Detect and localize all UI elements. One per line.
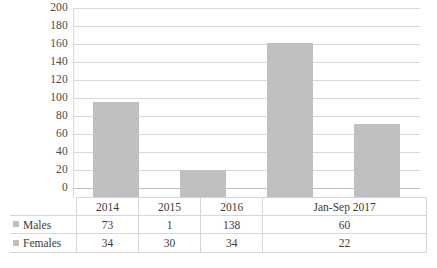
table-col-header-2016: 2016 bbox=[201, 198, 263, 216]
y-axis-tick: 200 bbox=[0, 2, 68, 13]
table-cell: 34 bbox=[201, 234, 263, 252]
legend-label-females: Females bbox=[23, 238, 61, 250]
table-cell: 30 bbox=[139, 234, 201, 252]
bar-slot bbox=[247, 8, 334, 198]
y-axis-tick: 20 bbox=[0, 164, 68, 175]
plot-area: 200 180 160 140 120 100 80 60 40 20 0 bbox=[0, 8, 437, 198]
y-axis-tick: 60 bbox=[0, 128, 68, 139]
bar-jan-sep-2017 bbox=[354, 124, 400, 198]
table-cell: 138 bbox=[201, 216, 263, 234]
legend-item-females: Females bbox=[10, 234, 77, 252]
table-col-header-jan-sep-2017: Jan-Sep 2017 bbox=[263, 198, 427, 216]
y-axis-tick: 40 bbox=[0, 146, 68, 157]
bar-2015 bbox=[180, 170, 226, 198]
table-cell: 60 bbox=[263, 216, 427, 234]
table-col-header-2014: 2014 bbox=[77, 198, 139, 216]
bar-series bbox=[73, 8, 420, 198]
plot-canvas bbox=[73, 8, 420, 198]
table-corner-blank bbox=[10, 198, 77, 216]
legend-swatch-icon bbox=[13, 240, 19, 246]
table-cell: 22 bbox=[263, 234, 427, 252]
y-axis-tick: 180 bbox=[0, 20, 68, 31]
y-axis-tick: 100 bbox=[0, 92, 68, 103]
legend-item-males: Males bbox=[10, 216, 77, 234]
y-axis-tick: 120 bbox=[0, 74, 68, 85]
stacked-bar-chart-with-data-table: 200 180 160 140 120 100 80 60 40 20 0 bbox=[0, 0, 437, 268]
y-axis-tick: 160 bbox=[0, 38, 68, 49]
y-axis-tick: 140 bbox=[0, 56, 68, 67]
y-axis-tick-labels: 200 180 160 140 120 100 80 60 40 20 0 bbox=[0, 8, 68, 198]
table-cell: 34 bbox=[77, 234, 139, 252]
bar-2016 bbox=[267, 43, 313, 198]
table-col-header-2015: 2015 bbox=[139, 198, 201, 216]
y-axis-tick: 80 bbox=[0, 110, 68, 121]
bar-slot bbox=[160, 8, 247, 198]
table-cell: 1 bbox=[139, 216, 201, 234]
table-header-row: 2014 2015 2016 Jan-Sep 2017 bbox=[10, 198, 427, 216]
y-axis-tick: 0 bbox=[0, 182, 68, 193]
chart-data-table: 2014 2015 2016 Jan-Sep 2017 Males 73 1 1… bbox=[10, 197, 427, 253]
table-cell: 73 bbox=[77, 216, 139, 234]
bar-2014 bbox=[93, 102, 139, 198]
legend-label-males: Males bbox=[23, 219, 51, 231]
bar-slot bbox=[73, 8, 160, 198]
bar-slot bbox=[333, 8, 420, 198]
table-row-females: Females 34 30 34 22 bbox=[10, 234, 427, 252]
legend-swatch-icon bbox=[13, 221, 19, 227]
table-row-males: Males 73 1 138 60 bbox=[10, 216, 427, 234]
